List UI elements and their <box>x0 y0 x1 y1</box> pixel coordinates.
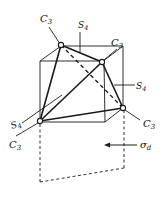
c3-right-bottom-axis <box>125 110 140 120</box>
tetrahedron-cube-figure: C3 S4 C3 S4 C3 S4 C3 σd <box>0 0 164 198</box>
c3-right-top-axis <box>104 49 117 60</box>
vertex-right-bottom <box>120 105 125 110</box>
arrowhead-icon <box>104 143 110 148</box>
tetra-edge <box>40 45 61 121</box>
vertex-bottom-left <box>37 118 42 123</box>
label-s4-right: S4 <box>136 81 146 93</box>
tetrahedron <box>40 45 123 121</box>
label-c3-right-bottom: C3 <box>143 118 156 131</box>
label-c3-bottom-left: C3 <box>9 139 22 152</box>
cube-edge <box>104 62 105 122</box>
tetra-edge <box>61 45 102 62</box>
label-s4-top: S4 <box>78 20 88 32</box>
c3-top-axis <box>49 27 60 44</box>
label-sigma-d: σd <box>140 139 152 152</box>
vertex-right-top <box>99 59 104 64</box>
label-s4-left: S4 <box>9 118 23 133</box>
tetra-hidden-edge <box>61 45 123 108</box>
symmetry-diagram: C3 S4 C3 S4 C3 S4 C3 σd <box>0 0 164 198</box>
label-c3-top: C3 <box>40 13 53 26</box>
label-c3-right-top: C3 <box>111 37 124 50</box>
vertex-top <box>58 42 63 47</box>
